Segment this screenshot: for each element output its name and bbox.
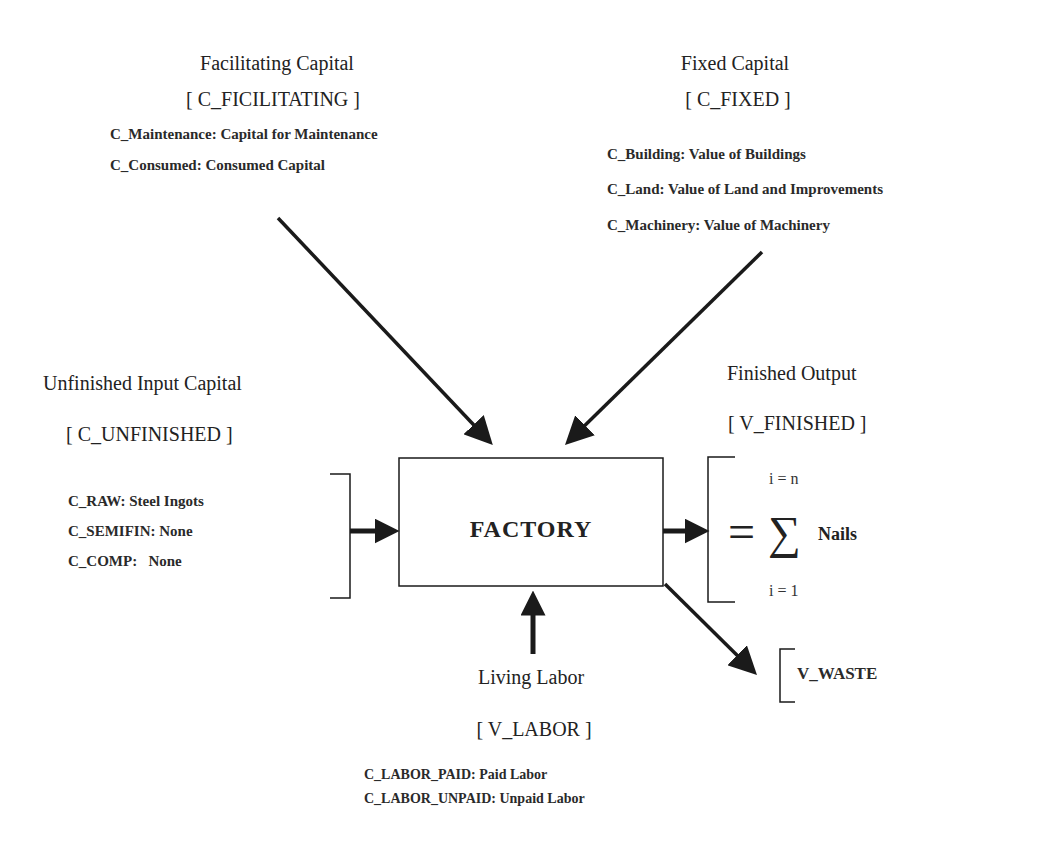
fixed-item: C_Land: Value of Land and Improvements xyxy=(607,181,883,198)
finished-tag: [ V_FINISHED ] xyxy=(728,412,867,435)
waste-bracket xyxy=(780,649,795,702)
labor-item: C_LABOR_PAID: Paid Labor xyxy=(364,767,547,783)
fixed-item: C_Machinery: Value of Machinery xyxy=(607,217,830,234)
unfinished-item: C_RAW: Steel Ingots xyxy=(68,493,204,510)
unfinished-tag: [ C_UNFINISHED ] xyxy=(66,423,233,446)
labor-item: C_LABOR_UNPAID: Unpaid Labor xyxy=(364,791,585,807)
facilitating-item: C_Maintenance: Capital for Maintenance xyxy=(110,126,378,143)
labor-tag: [ V_LABOR ] xyxy=(476,718,591,741)
finished-title: Finished Output xyxy=(727,362,856,385)
input-bracket xyxy=(330,474,350,598)
factory-label: FACTORY xyxy=(470,516,593,543)
unfinished-item: C_SEMIFIN: None xyxy=(68,523,193,540)
fixed-tag: [ C_FIXED ] xyxy=(685,88,791,111)
unfinished-item: C_COMP: None xyxy=(68,553,182,570)
equals-sign: = xyxy=(728,508,755,556)
facilitating-title: Facilitating Capital xyxy=(200,52,354,75)
fixed-item: C_Building: Value of Buildings xyxy=(607,146,806,163)
waste-label: V_WASTE xyxy=(797,664,877,684)
sigma-icon: ∑ xyxy=(768,510,801,556)
labor-title: Living Labor xyxy=(478,666,584,689)
fixed-title: Fixed Capital xyxy=(681,52,789,75)
sum-upper-index: i = n xyxy=(769,470,798,488)
facilitating-item: C_Consumed: Consumed Capital xyxy=(110,157,325,174)
facilitating-tag: [ C_FICILITATING ] xyxy=(186,88,360,111)
unfinished-title: Unfinished Input Capital xyxy=(43,372,242,395)
sum-lower-index: i = 1 xyxy=(769,582,798,600)
facilitating-arrow xyxy=(278,218,488,440)
sum-term: Nails xyxy=(818,524,857,545)
